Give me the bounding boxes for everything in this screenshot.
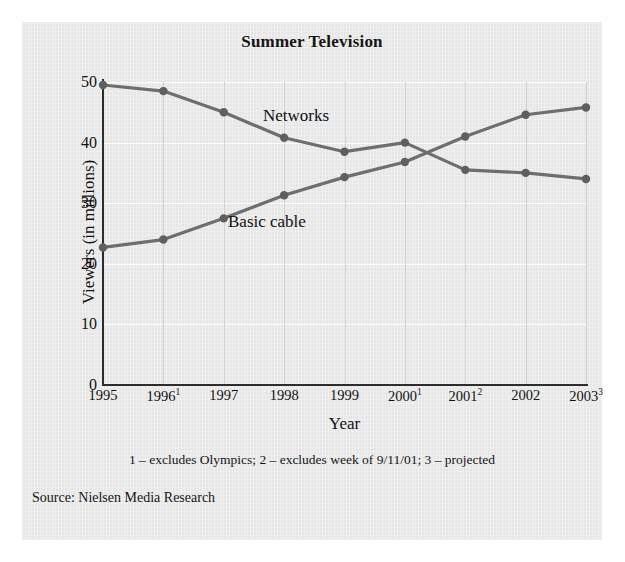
x-tick-footnote-marker: 1 (417, 387, 422, 397)
y-tick-label: 50 (81, 73, 97, 91)
x-tick-footnote-marker: 2 (477, 387, 482, 397)
data-point-marker (280, 134, 288, 142)
x-axis-title: Year (103, 414, 586, 434)
x-tick-label: 19961 (147, 387, 181, 405)
plot-area: 01020304050 1995199611997199819992000120… (103, 82, 586, 385)
data-point-marker (582, 175, 590, 183)
y-axis-title: Viewers (in millions) (79, 160, 99, 304)
data-point-marker (461, 132, 469, 140)
chart-source: Source: Nielsen Media Research (32, 490, 215, 506)
x-tick-label: 20001 (388, 387, 422, 405)
series-line-networks (103, 85, 586, 179)
data-point-marker (99, 81, 107, 89)
chart-footnote: 1 – excludes Olympics; 2 – excludes week… (22, 452, 602, 468)
x-tick-footnote-marker: 3 (598, 387, 603, 397)
x-tick-label: 1999 (330, 387, 359, 404)
data-point-marker (401, 138, 409, 146)
x-tick-label: 1995 (89, 387, 118, 404)
data-point-marker (99, 243, 107, 251)
data-point-marker (461, 166, 469, 174)
figure-panel: Summer Television 01020304050 1995199611… (22, 22, 602, 540)
x-tick-label: 20012 (448, 387, 482, 405)
series-plot (103, 82, 586, 385)
data-point-marker (220, 108, 228, 116)
y-tick-label: 40 (81, 134, 97, 152)
data-point-marker (340, 173, 348, 181)
data-point-marker (401, 158, 409, 166)
data-point-marker (220, 214, 228, 222)
data-point-marker (521, 111, 529, 119)
data-point-marker (521, 169, 529, 177)
x-tick-label: 1998 (270, 387, 299, 404)
gridline-vertical (586, 82, 587, 385)
data-point-marker (582, 103, 590, 111)
chart-title: Summer Television (22, 32, 602, 52)
data-point-marker (340, 147, 348, 155)
series-label-basic-cable: Basic cable (228, 212, 306, 232)
x-tick-label: 1997 (209, 387, 238, 404)
x-tick-label: 20033 (569, 387, 603, 405)
y-tick-label: 10 (81, 315, 97, 333)
series-label-networks: Networks (263, 106, 329, 126)
data-point-marker (159, 87, 167, 95)
x-tick-label: 2002 (511, 387, 540, 404)
x-tick-footnote-marker: 1 (176, 387, 181, 397)
data-point-marker (280, 191, 288, 199)
data-point-marker (159, 235, 167, 243)
